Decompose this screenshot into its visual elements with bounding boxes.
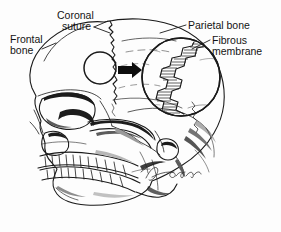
label-coronal-suture-line2: suture — [62, 20, 91, 32]
label-coronal-suture: Coronal suture — [57, 9, 94, 32]
skull-diagram-canvas: Coronal suture Frontal bone Parietal bon… — [0, 0, 281, 232]
skull-diagram-figure: Coronal suture Frontal bone Parietal bon… — [0, 0, 281, 232]
label-parietal-bone-line1: Parietal bone — [188, 19, 250, 31]
label-fibrous-membrane-line2: membrane — [212, 45, 262, 57]
label-parietal-bone: Parietal bone — [188, 19, 250, 31]
label-frontal-bone-line2: bone — [10, 44, 34, 56]
